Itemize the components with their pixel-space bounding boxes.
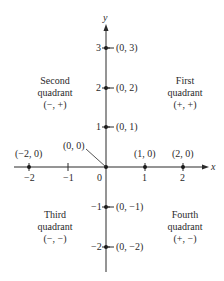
y-tick-label-2: 2: [96, 82, 101, 93]
quadrant-third-label: Third quadrant (−, −): [25, 209, 85, 245]
quadrant-third-signs: (−, −): [25, 233, 85, 245]
point-label-0-2: (0, 2): [116, 82, 138, 93]
point-1-0: [143, 165, 147, 169]
x-tick-label-minus-2: −2: [24, 172, 35, 183]
coordinate-plane-diagram: y x −2 −1 0 1 2 3 2 1 −1 −2 (0, 3) (0, 2…: [0, 0, 224, 281]
quadrant-fourth-signs: (+, −): [155, 233, 215, 245]
x-axis-arrow-icon: [202, 165, 209, 170]
point-label-minus-2-0: (−2, 0): [15, 148, 42, 159]
quadrant-first-label: First quadrant (+, +): [155, 75, 215, 111]
x-tick-label-minus-1: −1: [63, 172, 74, 183]
point-label-0-minus-1: (0, −1): [116, 201, 143, 212]
quadrant-first-name: First: [155, 75, 215, 87]
point-label-0-1: (0, 1): [116, 121, 138, 132]
leader-origin: [86, 149, 106, 167]
x-tick-label-1: 1: [142, 172, 147, 183]
quadrant-second-signs: (−, +): [25, 99, 85, 111]
x-tick-label-2: 2: [180, 172, 185, 183]
y-tick-label-1: 1: [96, 121, 101, 132]
quadrant-third-name: Third: [25, 209, 85, 221]
x-axis-label: x: [211, 161, 215, 172]
x-tick-label-0: 0: [97, 172, 102, 183]
point-label-0-minus-2: (0, −2): [116, 241, 143, 252]
quadrant-fourth-label: Fourth quadrant (+, −): [155, 209, 215, 245]
point-minus-2-0: [27, 165, 31, 169]
point-label-2-0: (2, 0): [172, 148, 194, 159]
y-tick-label-3: 3: [96, 42, 101, 53]
y-axis-arrow-icon: [104, 24, 109, 31]
point-label-1-0: (1, 0): [134, 148, 156, 159]
quadrant-fourth-word: quadrant: [155, 221, 215, 233]
y-axis-label: y: [103, 12, 107, 23]
y-tick-label-minus-2: −2: [91, 241, 102, 252]
quadrant-second-name: Second: [25, 75, 85, 87]
quadrant-first-word: quadrant: [155, 87, 215, 99]
y-tick-label-minus-1: −1: [91, 201, 102, 212]
quadrant-second-label: Second quadrant (−, +): [25, 75, 85, 111]
quadrant-second-word: quadrant: [25, 87, 85, 99]
quadrant-first-signs: (+, +): [155, 99, 215, 111]
point-label-origin: (0, 0): [63, 140, 85, 151]
point-2-0: [181, 165, 185, 169]
point-label-0-3: (0, 3): [116, 42, 138, 53]
quadrant-fourth-name: Fourth: [155, 209, 215, 221]
quadrant-third-word: quadrant: [25, 221, 85, 233]
